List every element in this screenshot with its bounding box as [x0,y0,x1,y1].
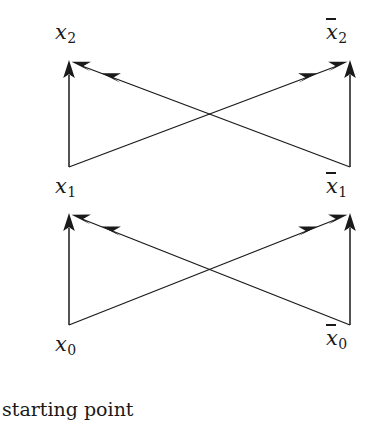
label-xbar0-overbar: x [326,328,338,349]
edge-x1-to-x2 [63,60,75,167]
label-xbar2-overbar: x [326,22,338,43]
label-x2: x2 [55,22,76,45]
iteration-diagram [0,0,383,444]
edge-xbar0-to-xbar1 [344,213,356,325]
label-xbar2: x2 [326,22,347,45]
label-x1: x1 [55,176,76,199]
label-x0: x0 [55,334,76,357]
edge-x0-to-x1 [63,213,75,325]
starting-point-caption: starting point [2,400,134,419]
edge-xbar1-to-xbar2 [344,60,356,167]
label-xbar1-overbar: x [326,176,338,197]
label-xbar0: x0 [326,328,347,351]
label-xbar1: x1 [326,176,347,199]
